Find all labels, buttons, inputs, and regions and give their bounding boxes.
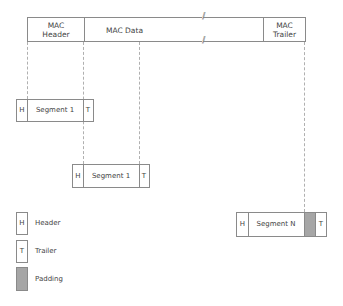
guide-line-frame-end xyxy=(304,42,305,212)
guide-line-seg1-end xyxy=(139,42,140,164)
mac-frame: MAC Header MAC Data MAC Trailer xyxy=(27,17,306,42)
mac-header-line2: Header xyxy=(28,30,84,39)
segment-2-trailer: T xyxy=(139,172,149,181)
segment-2-label: Segment 1 xyxy=(83,172,139,181)
legend-header-swatch: H xyxy=(16,212,28,235)
legend-trailer-swatch: T xyxy=(16,240,28,263)
segment-1-label: Segment 1 xyxy=(27,106,83,115)
segment-n-header: H xyxy=(237,220,248,229)
mac-trailer-line1: MAC xyxy=(263,21,306,30)
mac-data-label: MAC Data xyxy=(106,26,143,35)
segment-n-trailer: T xyxy=(316,220,326,229)
break-mark-bottom: // xyxy=(202,37,203,45)
segment-n-padding xyxy=(304,213,316,236)
mac-trailer-label: MAC Trailer xyxy=(263,21,306,39)
legend-padding-swatch xyxy=(16,267,28,291)
legend-padding-label: Padding xyxy=(35,275,63,284)
legend-trailer-label: Trailer xyxy=(35,247,57,256)
segment-1-header: H xyxy=(17,106,27,115)
segment-2: H Segment 1 T xyxy=(72,164,150,188)
segment-1-trailer: T xyxy=(83,106,93,115)
mac-header-label: MAC Header xyxy=(28,21,84,39)
legend-header-symbol: H xyxy=(17,219,27,228)
legend-trailer-symbol: T xyxy=(17,247,27,256)
mac-header-divider xyxy=(84,18,85,41)
segment-n: H Segment N T xyxy=(236,212,327,237)
segment-n-label: Segment N xyxy=(248,220,304,229)
mac-trailer-line2: Trailer xyxy=(263,30,306,39)
break-mark-top: // xyxy=(202,13,203,21)
legend-header-label: Header xyxy=(35,219,61,228)
segment-1: H Segment 1 T xyxy=(16,99,94,122)
guide-line-header-start xyxy=(27,42,28,99)
segment-2-header: H xyxy=(73,172,83,181)
mac-header-line1: MAC xyxy=(28,21,84,30)
